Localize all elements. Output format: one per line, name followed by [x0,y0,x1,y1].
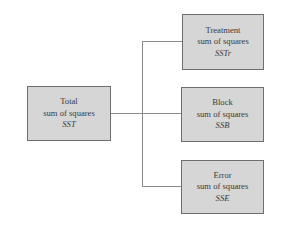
box-subtitle: sum of squares [197,36,249,48]
block-sum-of-squares-box: Block sum of squares SSB [181,87,264,142]
total-sum-of-squares-box: Total sum of squares SST [27,86,111,141]
connector-trunk [142,41,143,187]
connector-to-error [142,186,182,187]
box-title: Treatment [205,25,240,37]
connector-root-to-trunk [110,113,182,114]
box-subtitle: sum of squares [197,181,249,193]
box-symbol: SSE [216,193,230,205]
box-subtitle: sum of squares [197,109,249,121]
box-title: Total [60,96,78,108]
treatment-sum-of-squares-box: Treatment sum of squares SSTr [182,14,264,70]
box-symbol: SSTr [215,48,231,60]
box-subtitle: sum of squares [43,108,95,120]
box-title: Error [213,170,231,182]
error-sum-of-squares-box: Error sum of squares SSE [181,160,264,214]
box-title: Block [212,97,233,109]
box-symbol: SSB [216,120,230,132]
connector-to-treatment [142,41,182,42]
box-symbol: SST [62,119,75,131]
